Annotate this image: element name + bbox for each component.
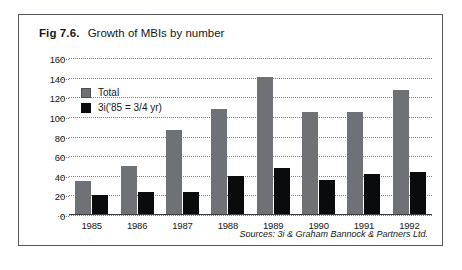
y-axis-tick-label: 20 — [55, 191, 65, 202]
chart-legend: Total3i('85 = 3/4 yr) — [81, 85, 162, 115]
bar-threei-1986 — [138, 192, 154, 215]
y-axis-tick-label: 40 — [55, 171, 65, 182]
y-axis-tick-label: 60 — [55, 152, 65, 163]
bar-threei-1992 — [410, 172, 426, 215]
y-axis-tick-label: 100 — [50, 112, 65, 123]
legend-item: Total — [81, 85, 162, 100]
figure-frame: Fig 7.6. Growth of MBIs by number 020406… — [18, 14, 443, 246]
x-axis-tick-label: 1986 — [127, 220, 147, 231]
bar-total-1987 — [166, 130, 182, 215]
bar-group: 1990 — [296, 58, 341, 215]
legend-item: 3i('85 = 3/4 yr) — [81, 100, 162, 115]
y-axis-tick-label: 80 — [55, 132, 65, 143]
bar-threei-1985 — [92, 195, 108, 215]
y-axis-tick-label: 0 — [60, 211, 65, 222]
bar-total-1985 — [75, 181, 91, 215]
bar-group: 1987 — [160, 58, 205, 215]
bar-group: 1991 — [341, 58, 386, 215]
bar-threei-1990 — [319, 180, 335, 215]
bar-total-1992 — [393, 90, 409, 215]
legend-label: 3i('85 = 3/4 yr) — [98, 102, 162, 113]
y-axis-tick-label: 120 — [50, 93, 65, 104]
legend-swatch — [81, 103, 91, 113]
y-axis-tick-label: 140 — [50, 73, 65, 84]
gridline: 0 — [69, 215, 432, 216]
x-axis-tick-label: 1988 — [218, 220, 238, 231]
figure-caption: Growth of MBIs by number — [88, 27, 225, 39]
y-axis-tick-label: 160 — [50, 54, 65, 65]
bar-group: 1992 — [387, 58, 432, 215]
legend-swatch — [81, 88, 91, 98]
bar-threei-1987 — [183, 192, 199, 215]
bar-total-1988 — [211, 109, 227, 215]
chart-plot-area: 020406080100120140160 198519861987198819… — [69, 58, 432, 215]
bar-total-1990 — [302, 112, 318, 215]
figure-title: Fig 7.6. Growth of MBIs by number — [39, 27, 224, 39]
bar-total-1989 — [257, 77, 273, 215]
bar-group: 1989 — [251, 58, 296, 215]
bar-threei-1989 — [274, 168, 290, 215]
source-note: Sources: 3i & Graham Bannock & Partners … — [239, 229, 428, 239]
x-axis-line — [69, 214, 432, 215]
bar-group: 1986 — [114, 58, 159, 215]
bar-threei-1991 — [364, 174, 380, 215]
x-axis-tick-label: 1985 — [82, 220, 102, 231]
figure-number: Fig 7.6. — [39, 27, 79, 39]
bar-threei-1988 — [228, 176, 244, 215]
bar-group: 1985 — [69, 58, 114, 215]
bar-group: 1988 — [205, 58, 250, 215]
bar-groups: 19851986198719881989199019911992 — [69, 58, 432, 215]
legend-label: Total — [98, 87, 119, 98]
bar-total-1991 — [347, 112, 363, 215]
bar-total-1986 — [121, 166, 137, 215]
x-axis-tick-label: 1987 — [172, 220, 192, 231]
